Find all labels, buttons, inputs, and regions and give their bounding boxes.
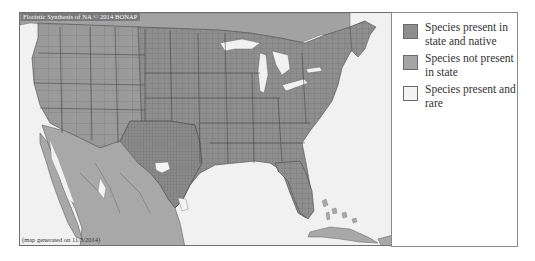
legend-label-not-present: Species not present in state [425, 51, 517, 79]
map-generated-date: (map generated on 11/3/2014) [22, 236, 100, 244]
swatch-native [403, 24, 418, 39]
legend-label-rare: Species present and rare [425, 82, 517, 110]
map-credit: Floristic Synthesis of NA © 2014 BONAP [21, 13, 140, 21]
legend-label-native: Species present in state and native [425, 20, 517, 48]
distribution-map: Floristic Synthesis of NA © 2014 BONAP (… [19, 12, 392, 246]
swatch-rare [403, 86, 418, 101]
north-america-map [20, 13, 392, 246]
map-legend: Species present in state and native Spec… [391, 12, 518, 247]
swatch-not-present [403, 55, 418, 70]
